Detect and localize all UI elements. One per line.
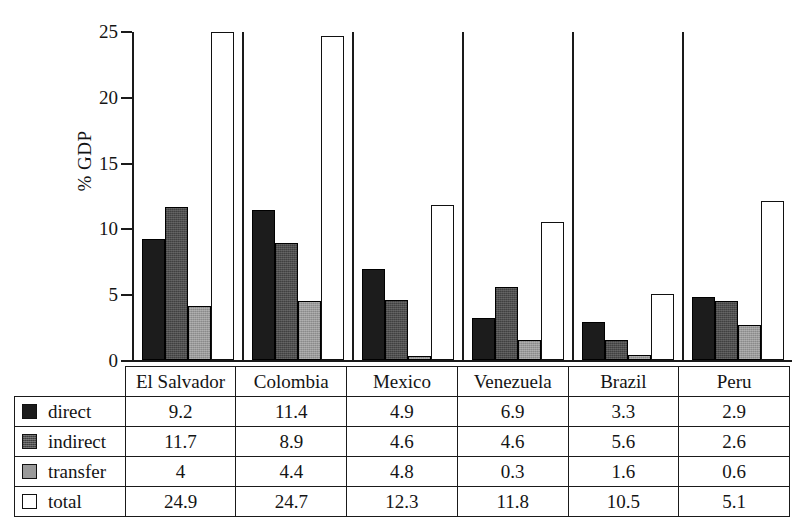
table-cell-total-mexico: 12.3 bbox=[347, 487, 458, 517]
bar-direct-brazil bbox=[582, 322, 605, 360]
y-tick-mark-10 bbox=[121, 228, 132, 230]
table-cell-indirect-mexico: 4.6 bbox=[347, 427, 458, 457]
bar-direct-peru bbox=[692, 297, 715, 360]
table-cell-total-colombia: 24.7 bbox=[236, 487, 347, 517]
table-cell-total-el-salvador: 24.9 bbox=[125, 487, 236, 517]
table-cell-transfer-el-salvador: 4 bbox=[125, 457, 236, 487]
y-tick-label-25: 25 bbox=[99, 21, 118, 43]
legend-label-direct: direct bbox=[48, 401, 91, 423]
bar-indirect-mexico bbox=[385, 300, 408, 360]
bar-transfer-brazil bbox=[628, 355, 651, 360]
table-cell-total-brazil: 10.5 bbox=[568, 487, 679, 517]
table-cell-total-venezuela: 11.8 bbox=[457, 487, 568, 517]
table-col-header-venezuela: Venezuela bbox=[457, 367, 568, 397]
table-cell-total-peru: 5.1 bbox=[679, 487, 790, 517]
plot-area bbox=[134, 32, 792, 360]
table-cell-transfer-colombia: 4.4 bbox=[236, 457, 347, 487]
bar-group-el-salvador bbox=[134, 32, 244, 360]
y-tick-mark-5 bbox=[121, 294, 132, 296]
bar-indirect-venezuela bbox=[495, 287, 518, 360]
bar-indirect-colombia bbox=[275, 243, 298, 360]
bar-total-brazil bbox=[651, 294, 674, 360]
bar-direct-mexico bbox=[362, 269, 385, 360]
bar-group-venezuela bbox=[464, 32, 574, 360]
table-row: direct9.211.44.96.93.32.9 bbox=[15, 397, 790, 427]
table-cell-indirect-el-salvador: 11.7 bbox=[125, 427, 236, 457]
bar-indirect-el-salvador bbox=[165, 207, 188, 361]
bar-total-el-salvador bbox=[211, 32, 234, 360]
table-col-header-colombia: Colombia bbox=[236, 367, 347, 397]
table-cell-direct-venezuela: 6.9 bbox=[457, 397, 568, 427]
table-cell-direct-mexico: 4.9 bbox=[347, 397, 458, 427]
bar-total-venezuela bbox=[541, 222, 564, 360]
bar-group-mexico bbox=[354, 32, 464, 360]
table-cell-direct-peru: 2.9 bbox=[679, 397, 790, 427]
table-cell-indirect-brazil: 5.6 bbox=[568, 427, 679, 457]
table-cell-direct-colombia: 11.4 bbox=[236, 397, 347, 427]
bar-transfer-venezuela bbox=[518, 340, 541, 360]
table-cell-transfer-mexico: 4.8 bbox=[347, 457, 458, 487]
bar-group-colombia bbox=[244, 32, 354, 360]
bar-transfer-peru bbox=[738, 325, 761, 360]
table-row: total24.924.712.311.810.55.1 bbox=[15, 487, 790, 517]
bar-direct-el-salvador bbox=[142, 239, 165, 360]
legend-label-total: total bbox=[48, 491, 82, 513]
bar-group-peru bbox=[684, 32, 792, 360]
table-corner-cell bbox=[15, 367, 126, 397]
table-cell-indirect-peru: 2.6 bbox=[679, 427, 790, 457]
bar-indirect-brazil bbox=[605, 340, 628, 360]
table-head: El SalvadorColombiaMexicoVenezuelaBrazil… bbox=[15, 367, 790, 397]
legend-cell-total: total bbox=[15, 487, 126, 517]
bar-chart: % GDP 2520151050 bbox=[0, 0, 804, 368]
table-cell-indirect-colombia: 8.9 bbox=[236, 427, 347, 457]
bar-transfer-colombia bbox=[298, 301, 321, 360]
legend-cell-direct: direct bbox=[15, 397, 126, 427]
bar-group-brazil bbox=[574, 32, 684, 360]
table-cell-transfer-venezuela: 0.3 bbox=[457, 457, 568, 487]
table-body: direct9.211.44.96.93.32.9indirect11.78.9… bbox=[15, 397, 790, 517]
table-cell-direct-el-salvador: 9.2 bbox=[125, 397, 236, 427]
y-axis-ticks: 2520151050 bbox=[60, 0, 132, 368]
table-col-header-mexico: Mexico bbox=[347, 367, 458, 397]
legend-swatch-indirect-icon bbox=[22, 434, 37, 449]
bar-total-colombia bbox=[321, 36, 344, 360]
y-tick-mark-15 bbox=[121, 163, 132, 165]
legend-swatch-direct-icon bbox=[22, 404, 37, 419]
y-tick-label-20: 20 bbox=[99, 87, 118, 109]
bar-total-mexico bbox=[431, 205, 454, 360]
legend-swatch-total-icon bbox=[22, 494, 37, 509]
legend-label-transfer: transfer bbox=[48, 461, 106, 483]
y-tick-mark-20 bbox=[121, 97, 132, 99]
bar-indirect-peru bbox=[715, 301, 738, 360]
table-col-header-peru: Peru bbox=[679, 367, 790, 397]
bar-direct-venezuela bbox=[472, 318, 495, 360]
table-cell-direct-brazil: 3.3 bbox=[568, 397, 679, 427]
table-col-header-el-salvador: El Salvador bbox=[125, 367, 236, 397]
bar-total-peru bbox=[761, 201, 784, 360]
y-tick-label-5: 5 bbox=[109, 284, 119, 306]
bar-transfer-mexico bbox=[408, 356, 431, 360]
table-cell-transfer-brazil: 1.6 bbox=[568, 457, 679, 487]
table-row: indirect11.78.94.64.65.62.6 bbox=[15, 427, 790, 457]
bar-direct-colombia bbox=[252, 210, 275, 360]
bar-transfer-el-salvador bbox=[188, 306, 211, 360]
data-table: El SalvadorColombiaMexicoVenezuelaBrazil… bbox=[14, 366, 790, 517]
table-col-header-brazil: Brazil bbox=[568, 367, 679, 397]
table-row: transfer44.44.80.31.60.6 bbox=[15, 457, 790, 487]
y-tick-mark-25 bbox=[121, 31, 132, 33]
legend-label-indirect: indirect bbox=[48, 431, 106, 453]
table-cell-transfer-peru: 0.6 bbox=[679, 457, 790, 487]
legend-swatch-transfer-icon bbox=[22, 464, 37, 479]
table-header-row: El SalvadorColombiaMexicoVenezuelaBrazil… bbox=[15, 367, 790, 397]
legend-cell-transfer: transfer bbox=[15, 457, 126, 487]
table-cell-indirect-venezuela: 4.6 bbox=[457, 427, 568, 457]
legend-cell-indirect: indirect bbox=[15, 427, 126, 457]
y-tick-label-10: 10 bbox=[99, 218, 118, 240]
y-tick-label-15: 15 bbox=[99, 153, 118, 175]
x-axis-line bbox=[121, 360, 792, 362]
